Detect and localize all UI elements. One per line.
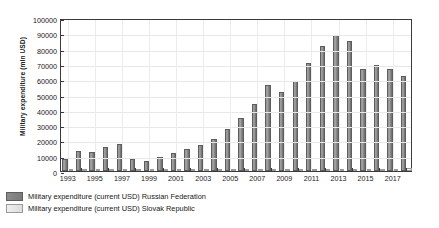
x-gridline bbox=[122, 20, 123, 171]
x-tick-label: 2005 bbox=[222, 174, 238, 183]
x-gridline bbox=[284, 20, 285, 171]
plot-area: 0100002000030000400005000060000700008000… bbox=[60, 19, 412, 172]
x-gridline bbox=[203, 20, 204, 171]
x-tick-mark bbox=[352, 168, 353, 171]
legend-item[interactable]: Military expenditure (current USD) Russi… bbox=[6, 191, 206, 201]
x-gridline bbox=[257, 20, 258, 171]
y-gridline bbox=[61, 142, 411, 143]
y-tick-mark bbox=[61, 127, 64, 128]
x-gridline bbox=[176, 20, 177, 171]
x-tick-label: 1993 bbox=[60, 174, 76, 183]
x-tick-label: 2011 bbox=[304, 174, 319, 183]
y-tick-mark bbox=[61, 35, 64, 36]
y-gridline bbox=[61, 112, 411, 113]
y-gridline bbox=[61, 127, 411, 128]
y-axis-title: Military expenditure (mln USD) bbox=[19, 12, 26, 162]
y-tick-mark bbox=[61, 81, 64, 82]
legend-label: Military expenditure (current USD) Slova… bbox=[28, 204, 195, 213]
y-tick-label: 80000 bbox=[37, 46, 61, 55]
x-tick-mark bbox=[244, 168, 245, 171]
x-tick-mark bbox=[190, 168, 191, 171]
x-gridline bbox=[311, 20, 312, 171]
y-tick-mark bbox=[61, 112, 64, 113]
x-tick-label: 1999 bbox=[141, 174, 157, 183]
bar-2006-s0 bbox=[238, 118, 243, 171]
chart-figure: Military expenditure (mln USD) 010000200… bbox=[0, 0, 439, 228]
legend-swatch-icon bbox=[6, 192, 23, 201]
x-tick-mark bbox=[135, 168, 136, 171]
y-tick-mark bbox=[61, 20, 64, 21]
legend-label: Military expenditure (current USD) Russi… bbox=[28, 192, 206, 201]
x-tick-label: 2003 bbox=[195, 174, 211, 183]
y-tick-label: 60000 bbox=[37, 77, 61, 86]
y-tick-mark bbox=[61, 158, 64, 159]
x-tick-label: 2017 bbox=[385, 174, 401, 183]
x-tick-label: 2001 bbox=[168, 174, 184, 183]
x-tick-mark bbox=[163, 168, 164, 171]
x-tick-mark bbox=[217, 168, 218, 171]
y-tick-label: 90000 bbox=[37, 31, 61, 40]
bar-2014-s0 bbox=[347, 41, 352, 171]
y-tick-mark bbox=[61, 97, 64, 98]
y-gridline bbox=[61, 81, 411, 82]
bars-container bbox=[61, 20, 411, 171]
x-tick-mark bbox=[271, 168, 272, 171]
x-tick-label: 2013 bbox=[331, 174, 347, 183]
y-tick-label: 100000 bbox=[33, 16, 61, 25]
y-gridline bbox=[61, 158, 411, 159]
chart-legend: Military expenditure (current USD) Russi… bbox=[6, 191, 206, 215]
legend-item[interactable]: Military expenditure (current USD) Slova… bbox=[6, 203, 206, 213]
y-gridline bbox=[61, 35, 411, 36]
x-tick-mark bbox=[406, 168, 407, 171]
x-gridline bbox=[366, 20, 367, 171]
y-tick-label: 20000 bbox=[37, 138, 61, 147]
x-tick-mark bbox=[379, 168, 380, 171]
x-gridline bbox=[393, 20, 394, 171]
x-tick-mark bbox=[325, 168, 326, 171]
x-tick-mark bbox=[81, 168, 82, 171]
y-tick-label: 50000 bbox=[37, 92, 61, 101]
bar-2012-s0 bbox=[320, 46, 325, 171]
y-tick-label: 30000 bbox=[37, 123, 61, 132]
y-gridline bbox=[61, 51, 411, 52]
x-gridline bbox=[230, 20, 231, 171]
legend-swatch-icon bbox=[6, 204, 23, 213]
y-tick-mark bbox=[61, 51, 64, 52]
y-tick-mark bbox=[61, 142, 64, 143]
y-tick-label: 10000 bbox=[37, 153, 61, 162]
x-tick-mark bbox=[298, 168, 299, 171]
bar-2004-s0 bbox=[211, 139, 216, 171]
x-tick-label: 2007 bbox=[249, 174, 265, 183]
x-gridline bbox=[339, 20, 340, 171]
y-gridline bbox=[61, 66, 411, 67]
x-tick-label: 2009 bbox=[276, 174, 292, 183]
x-gridline bbox=[68, 20, 69, 171]
x-tick-label: 2015 bbox=[358, 174, 374, 183]
x-tick-label: 1997 bbox=[114, 174, 130, 183]
y-tick-label: 40000 bbox=[37, 107, 61, 116]
y-tick-label: 70000 bbox=[37, 61, 61, 70]
x-gridline bbox=[95, 20, 96, 171]
y-tick-mark bbox=[61, 66, 64, 67]
x-tick-mark bbox=[108, 168, 109, 171]
x-tick-label: 1995 bbox=[87, 174, 103, 183]
x-gridline bbox=[149, 20, 150, 171]
y-gridline bbox=[61, 97, 411, 98]
